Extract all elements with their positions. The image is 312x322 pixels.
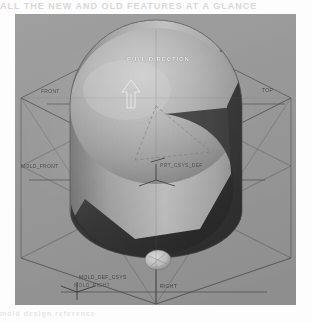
specular-highlight [83, 60, 171, 120]
datum-label-right: RIGHT [160, 283, 177, 289]
page-bleed-top: ALL THE NEW AND OLD FEATURES AT A GLANCE [0, 1, 312, 12]
csys-label-mold-def-csys: MOLD_DEF_CSYS [79, 274, 127, 280]
cad-screenshot: ALL THE NEW AND OLD FEATURES AT A GLANCE [0, 0, 312, 322]
csys-label-prt-csys-def: PRT_CSYS_DEF [160, 162, 203, 168]
page-bleed-bottom: mold design reference [0, 310, 312, 321]
scan-speck [220, 50, 222, 52]
cad-graphics-window[interactable]: PULL DIRECTION FRONT TOP MOLD_FRONT RIGH… [15, 14, 296, 305]
datum-label-front: FRONT [41, 88, 60, 94]
csys-label-mold-right: MOLD_RIGHT [74, 282, 110, 288]
datum-label-top: TOP [262, 87, 273, 93]
pull-direction-label: PULL DIRECTION [127, 56, 190, 62]
datum-label-mold-front: MOLD_FRONT [21, 163, 58, 169]
